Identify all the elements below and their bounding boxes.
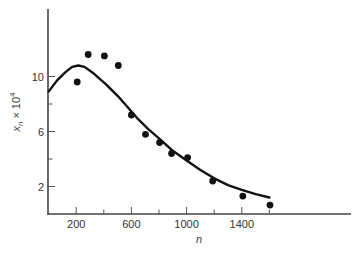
data-point xyxy=(74,79,81,86)
y-axis-title: xn×104 xyxy=(8,92,25,133)
data-points xyxy=(74,51,274,208)
data-point xyxy=(85,51,92,58)
data-point xyxy=(115,62,122,69)
data-point xyxy=(239,193,246,200)
y-tick-label: 6 xyxy=(38,126,44,138)
y-tick-label: 10 xyxy=(32,71,44,83)
data-point xyxy=(267,202,274,209)
x-tick-label: 200 xyxy=(67,218,85,230)
x-axis-title: n xyxy=(196,233,202,245)
model-curve-path xyxy=(49,66,270,198)
chart-canvas: 200600100014002610 n xn×104 xyxy=(0,0,363,255)
y-label-power-base: 10 xyxy=(10,97,22,109)
x-tick-label: 1000 xyxy=(174,218,198,230)
data-point xyxy=(101,53,108,60)
x-tick-label: 600 xyxy=(122,218,140,230)
data-point xyxy=(128,112,135,119)
y-label-times: × xyxy=(10,112,22,118)
y-tick-label: 2 xyxy=(38,181,44,193)
data-point xyxy=(168,150,175,157)
data-point xyxy=(142,131,149,138)
y-label-subscript: n xyxy=(16,121,25,126)
x-tick-label: 1400 xyxy=(230,218,254,230)
y-label-exponent: 4 xyxy=(8,92,17,97)
data-point xyxy=(209,178,216,185)
model-curve xyxy=(49,66,270,198)
axes xyxy=(47,9,351,215)
tick-labels: 200600100014002610 xyxy=(32,71,254,231)
data-point xyxy=(184,154,191,161)
data-point xyxy=(156,139,163,146)
